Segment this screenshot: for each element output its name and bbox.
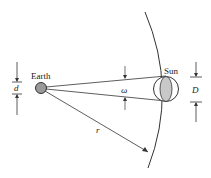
sun-disk: [160, 77, 172, 102]
r-label: r: [96, 125, 100, 135]
sun-label: Sun: [164, 66, 179, 76]
d-arrowhead-bottom: [15, 94, 19, 98]
d-arrowhead-top: [15, 78, 19, 82]
d-label: d: [14, 83, 19, 93]
D-label: D: [191, 85, 199, 95]
earth-sun-diagram: Earth d r ω Sun D: [0, 0, 211, 178]
radius-arrowhead: [142, 147, 148, 152]
omega-arrowhead-top: [123, 75, 127, 79]
earth-circle: [36, 83, 47, 94]
omega-arrowhead-bottom: [123, 97, 127, 101]
D-arrowhead-top: [194, 73, 198, 77]
omega-label: ω: [121, 85, 127, 95]
earth-label: Earth: [31, 71, 51, 81]
line-to-sun-bottom: [46, 89, 166, 101]
radius-line: [45, 91, 148, 152]
line-to-sun-top: [46, 76, 166, 87]
D-arrowhead-bottom: [194, 102, 198, 106]
